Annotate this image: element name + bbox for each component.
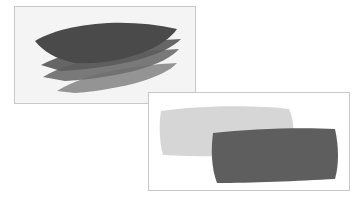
leaf-strokes-card bbox=[14, 6, 196, 104]
layered-leaf-illustration bbox=[15, 7, 197, 105]
paint-swatch-illustration bbox=[149, 93, 351, 192]
paint-swatches-card bbox=[148, 92, 350, 191]
